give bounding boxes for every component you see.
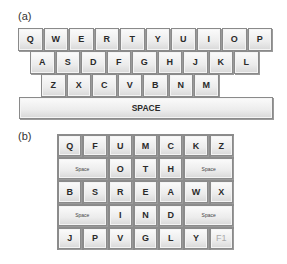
grid-key-g[interactable]: G xyxy=(134,228,157,249)
key-h[interactable]: H xyxy=(158,51,183,74)
grid-key-r[interactable]: R xyxy=(109,181,132,202)
key-u[interactable]: U xyxy=(171,28,196,51)
key-k[interactable]: K xyxy=(209,51,234,74)
grid-key-j[interactable]: J xyxy=(58,228,81,249)
grid-key-i[interactable]: I xyxy=(109,205,132,226)
grid-key-x[interactable]: X xyxy=(210,181,233,202)
key-o[interactable]: O xyxy=(222,28,247,51)
grid-key-e[interactable]: E xyxy=(134,181,157,202)
panel-a-label: (a) xyxy=(18,10,31,22)
key-i[interactable]: I xyxy=(197,28,222,51)
grid-key-y[interactable]: Y xyxy=(184,228,207,249)
key-s[interactable]: S xyxy=(56,51,81,74)
key-n[interactable]: N xyxy=(169,74,194,97)
key-space[interactable]: SPACE xyxy=(19,97,273,119)
key-f[interactable]: F xyxy=(107,51,132,74)
grid-key-f[interactable]: F xyxy=(83,135,106,156)
key-c[interactable]: C xyxy=(92,74,117,97)
grid-key-o[interactable]: O xyxy=(109,158,132,179)
grid-keyboard: QFUMCKZSpaceOTHSpaceBSREAWXSpaceINDSpace… xyxy=(57,134,234,250)
key-a[interactable]: A xyxy=(30,51,55,74)
key-w[interactable]: W xyxy=(44,28,69,51)
grid-key-q[interactable]: Q xyxy=(58,135,81,156)
key-l[interactable]: L xyxy=(234,51,259,74)
grid-key-space[interactable]: Space xyxy=(184,205,233,226)
grid-key-c[interactable]: C xyxy=(159,135,182,156)
grid-key-space[interactable]: Space xyxy=(184,158,233,179)
key-y[interactable]: Y xyxy=(146,28,171,51)
key-x[interactable]: X xyxy=(67,74,92,97)
panel-b-label: (b) xyxy=(18,130,31,142)
grid-key-l[interactable]: L xyxy=(159,228,182,249)
grid-key-w[interactable]: W xyxy=(184,181,207,202)
grid-key-b[interactable]: B xyxy=(58,181,81,202)
grid-key-space[interactable]: Space xyxy=(58,158,107,179)
grid-key-f1[interactable]: F1 xyxy=(210,228,233,249)
grid-key-m[interactable]: M xyxy=(134,135,157,156)
grid-key-k[interactable]: K xyxy=(184,135,207,156)
key-g[interactable]: G xyxy=(132,51,157,74)
grid-key-h[interactable]: H xyxy=(159,158,182,179)
grid-key-t[interactable]: T xyxy=(134,158,157,179)
key-r[interactable]: R xyxy=(95,28,120,51)
key-m[interactable]: M xyxy=(194,74,219,97)
key-p[interactable]: P xyxy=(248,28,273,51)
grid-key-n[interactable]: N xyxy=(134,205,157,226)
key-d[interactable]: D xyxy=(81,51,106,74)
key-z[interactable]: Z xyxy=(41,74,66,97)
grid-key-a[interactable]: A xyxy=(159,181,182,202)
grid-key-z[interactable]: Z xyxy=(210,135,233,156)
key-v[interactable]: V xyxy=(118,74,143,97)
grid-key-v[interactable]: V xyxy=(109,228,132,249)
grid-key-u[interactable]: U xyxy=(109,135,132,156)
key-t[interactable]: T xyxy=(120,28,145,51)
grid-key-s[interactable]: S xyxy=(83,181,106,202)
key-q[interactable]: Q xyxy=(18,28,43,51)
key-e[interactable]: E xyxy=(69,28,94,51)
grid-key-space[interactable]: Space xyxy=(58,205,107,226)
grid-key-d[interactable]: D xyxy=(159,205,182,226)
grid-key-p[interactable]: P xyxy=(83,228,106,249)
key-b[interactable]: B xyxy=(143,74,168,97)
key-j[interactable]: J xyxy=(183,51,208,74)
